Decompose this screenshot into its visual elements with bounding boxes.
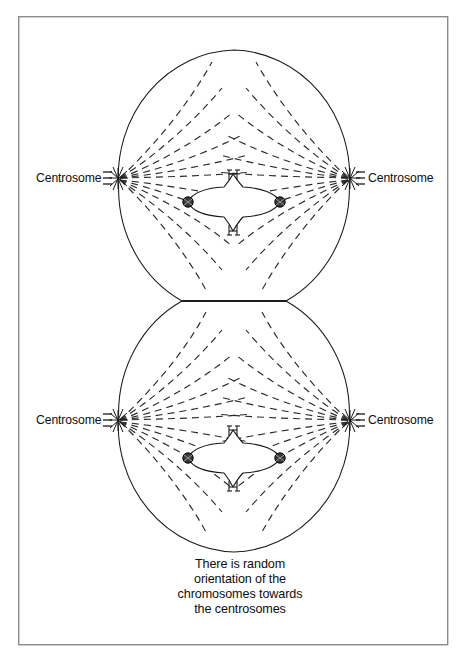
lower-right-centrosome-label: Centrosome bbox=[368, 413, 434, 427]
caption-line-1: There is random bbox=[195, 557, 285, 571]
kinetochore-right bbox=[275, 453, 285, 463]
caption-line-4: the centrosomes bbox=[194, 602, 286, 616]
mitosis-diagram: Centrosome Centrosome bbox=[0, 0, 468, 660]
caption-line-2: orientation of the bbox=[194, 572, 286, 586]
upper-left-centrosome-label: Centrosome bbox=[36, 171, 102, 185]
kinetochore-right bbox=[275, 197, 285, 207]
kinetochore-left bbox=[183, 197, 193, 207]
diagram-canvas: Centrosome Centrosome bbox=[0, 0, 468, 660]
figure-frame bbox=[19, 17, 448, 645]
figure-caption: There is random orientation of the chrom… bbox=[178, 557, 303, 616]
caption-line-3: chromosomes towards bbox=[178, 587, 303, 601]
kinetochore-left bbox=[183, 453, 193, 463]
upper-right-centrosome-label: Centrosome bbox=[368, 171, 434, 185]
lower-left-centrosome-label: Centrosome bbox=[36, 413, 102, 427]
